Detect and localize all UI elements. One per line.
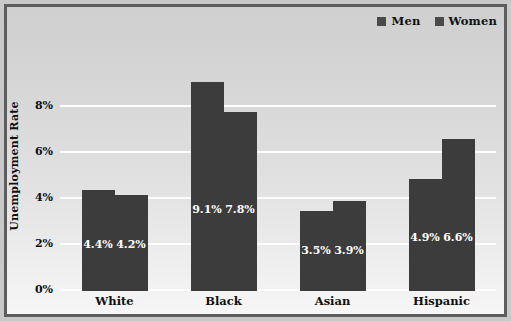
- bar-value-label: 9.1%: [191, 203, 224, 216]
- bar-group: 9.1%7.8%: [191, 66, 257, 291]
- y-tick-label: 2%: [35, 237, 53, 250]
- chart-legend: Men Women: [377, 14, 497, 28]
- bars-layer: 4.4%4.2%9.1%7.8%3.5%3.9%4.9%6.6%: [60, 66, 496, 291]
- y-axis-title: Unemployment Rate: [8, 96, 24, 236]
- bar-value-label: 6.6%: [442, 231, 475, 244]
- x-axis-labels: WhiteBlackAsianHispanic: [60, 294, 496, 314]
- bar-value-label: 4.9%: [409, 231, 442, 244]
- legend-label-women: Women: [449, 14, 498, 28]
- x-axis-label-black: Black: [169, 294, 278, 308]
- bar-black-women: [224, 112, 257, 291]
- bar-group: 4.4%4.2%: [82, 66, 148, 291]
- x-axis-label-hispanic: Hispanic: [387, 294, 496, 308]
- bar-value-label: 3.5%: [300, 244, 333, 257]
- bar-hispanic-women: [442, 139, 475, 291]
- y-tick-label: 8%: [35, 99, 53, 112]
- legend-swatch-icon: [377, 17, 386, 26]
- bar-value-label: 7.8%: [224, 203, 257, 216]
- bar-group: 4.9%6.6%: [409, 66, 475, 291]
- chart-container: Men Women Unemployment Rate 8%6%4%2%0% 4…: [0, 0, 511, 321]
- legend-label-men: Men: [391, 14, 420, 28]
- x-axis-label-white: White: [60, 294, 169, 308]
- bar-value-label: 4.4%: [82, 238, 115, 251]
- bar-value-label: 3.9%: [333, 244, 366, 257]
- legend-entry-men: Men: [377, 14, 420, 28]
- y-tick-label: 4%: [35, 191, 53, 204]
- y-tick-label: 0%: [35, 283, 53, 296]
- plot-area: 8%6%4%2%0% 4.4%4.2%9.1%7.8%3.5%3.9%4.9%6…: [60, 66, 496, 291]
- y-tick-label: 6%: [35, 145, 53, 158]
- legend-swatch-icon: [435, 17, 444, 26]
- bar-black-men: [191, 82, 224, 291]
- bar-group: 3.5%3.9%: [300, 66, 366, 291]
- bar-value-label: 4.2%: [115, 238, 148, 251]
- legend-entry-women: Women: [435, 14, 498, 28]
- x-axis-label-asian: Asian: [278, 294, 387, 308]
